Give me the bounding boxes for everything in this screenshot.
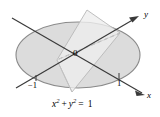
caption-equation: x2+y2=1: [52, 100, 94, 110]
equation-plus: +: [61, 99, 66, 109]
x-axis-label: x: [147, 91, 151, 100]
equation-exponent-2: 2: [73, 97, 76, 104]
equation-rhs: 1: [88, 99, 93, 109]
x-tick-label-positive-one: 1: [117, 79, 121, 88]
equation-exponent-1: 2: [56, 97, 59, 104]
x-tick-label-negative-one: −1: [28, 81, 37, 90]
y-axis-label: y: [144, 10, 148, 19]
equation-equals: =: [78, 99, 83, 109]
origin-label: 0: [73, 49, 78, 58]
figure-container: 0 y x −1 1 x2+y2=1: [0, 0, 160, 117]
